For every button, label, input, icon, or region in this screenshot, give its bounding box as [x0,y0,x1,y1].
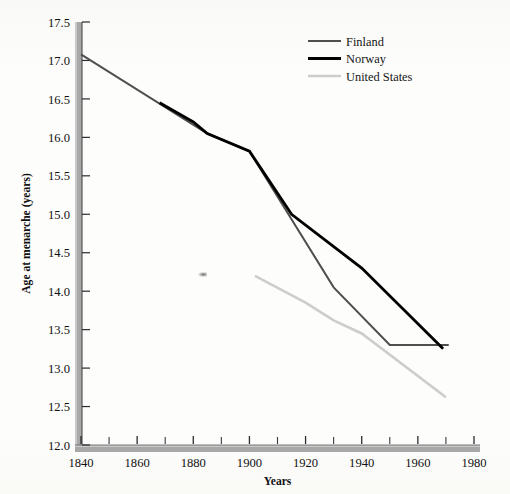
y-tick-label: 16.0 [48,131,70,145]
y-tick-label: 14.5 [48,246,70,260]
axes-group [75,22,480,452]
y-tick-label: 15.0 [48,208,70,222]
y-tick-label: 12.5 [48,400,70,414]
legend-label-finland: Finland [346,35,385,49]
legend-label-united-states: United States [346,70,413,84]
x-tick-label: 1980 [461,456,486,470]
y-axis-title: Age at menarche (years) [20,173,33,294]
y-tick-label: 13.5 [48,323,70,337]
chart-figure: 12.012.513.013.514.014.515.015.516.016.5… [0,0,510,494]
data-series-group [81,54,449,397]
x-tick-label: 1900 [237,456,262,470]
legend: FinlandNorwayUnited States [308,35,413,84]
y-ticks-group: 12.012.513.013.514.014.515.015.516.016.5… [48,16,90,453]
legend-label-norway: Norway [346,52,387,66]
x-tick-label: 1860 [125,456,150,470]
y-tick-label: 12.0 [48,439,70,453]
series-line-united-states [255,276,446,398]
x-ticks-group: 18401860188019001920194019601980 [68,436,486,470]
y-tick-label: 17.5 [48,16,70,30]
x-tick-label: 1920 [293,456,318,470]
y-tick-label: 14.0 [48,285,70,299]
y-tick-label: 16.5 [48,93,70,107]
x-tick-label: 1880 [181,456,206,470]
line-chart-canvas: 12.012.513.013.514.014.515.015.516.016.5… [0,0,510,494]
series-line-norway [160,103,444,349]
y-tick-label: 17.0 [48,54,70,68]
x-tick-label: 1940 [349,456,374,470]
y-tick-label: 13.0 [48,362,70,376]
y-tick-label: 15.5 [48,169,70,183]
x-tick-label: 1960 [405,456,430,470]
x-axis-title: Years [264,475,292,488]
x-tick-label: 1840 [68,456,93,470]
y-axis-spine-highlight [75,22,77,446]
